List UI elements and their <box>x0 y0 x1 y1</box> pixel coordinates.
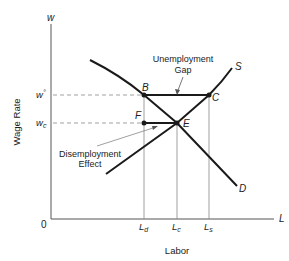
unemployment-gap-text-1: Unemployment <box>153 54 214 64</box>
ld-label: Ld <box>139 221 149 233</box>
w-min-label: w° <box>36 89 46 100</box>
ls-label: Ls <box>204 221 213 233</box>
point-f-label: F <box>135 110 142 121</box>
point-e-label: E <box>183 118 190 129</box>
point-b-label: B <box>142 82 149 93</box>
y-axis-title: Wage Rate <box>11 98 22 145</box>
point-b <box>142 93 147 98</box>
lc-label: Lc <box>172 221 181 233</box>
point-f <box>142 121 147 126</box>
disemployment-text-2: Effect <box>79 159 102 169</box>
supply-label: S <box>235 61 242 72</box>
x-axis-symbol: L <box>279 213 285 224</box>
labor-market-diagram: w L 0 Wage Rate Labor w° wc Ld Lc Ls S D… <box>0 0 289 261</box>
y-axis-symbol: w <box>47 12 55 23</box>
disemployment-arrowhead <box>152 126 158 130</box>
unemployment-gap-text-2: Gap <box>174 65 191 75</box>
point-e <box>175 121 180 126</box>
wc-label: wc <box>36 117 47 129</box>
point-c <box>207 93 212 98</box>
demand-label: D <box>239 183 246 194</box>
supply-curve <box>106 68 232 174</box>
x-axis-title: Labor <box>165 245 189 256</box>
disemployment-text-1: Disemployment <box>59 149 122 159</box>
point-c-label: C <box>212 92 220 103</box>
disemployment-pointer <box>97 127 156 146</box>
origin-label: 0 <box>41 219 47 230</box>
